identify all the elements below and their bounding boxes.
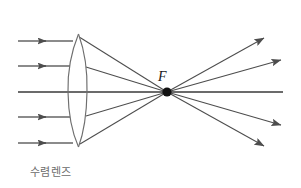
lens-left-surface xyxy=(68,34,79,147)
refracted-ray-2 xyxy=(86,67,167,92)
refracted-ray-1 xyxy=(80,38,167,93)
diverging-ray-3 xyxy=(167,92,281,125)
diverging-ray-4 xyxy=(167,92,264,146)
converging-lens xyxy=(68,34,87,147)
refracted-ray-3 xyxy=(86,92,167,116)
refracted-ray-group xyxy=(80,38,167,145)
ray-diagram-canvas: F xyxy=(0,0,301,188)
diverging-ray-2 xyxy=(167,60,281,92)
focal-point-dot xyxy=(162,87,171,96)
diverging-ray-1 xyxy=(167,38,264,92)
focal-point-label: F xyxy=(157,69,167,84)
refracted-ray-4 xyxy=(80,92,167,144)
figure-caption: 수렴렌즈 xyxy=(30,163,71,179)
optics-figure: F 수렴렌즈 xyxy=(0,0,301,188)
lens-right-surface xyxy=(79,34,88,147)
